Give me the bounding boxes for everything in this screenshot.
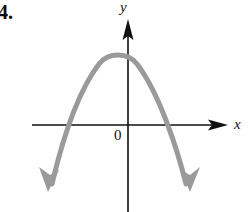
parabola-figure: 4. y x 0 xyxy=(0,0,250,212)
coordinate-plot xyxy=(0,0,250,212)
